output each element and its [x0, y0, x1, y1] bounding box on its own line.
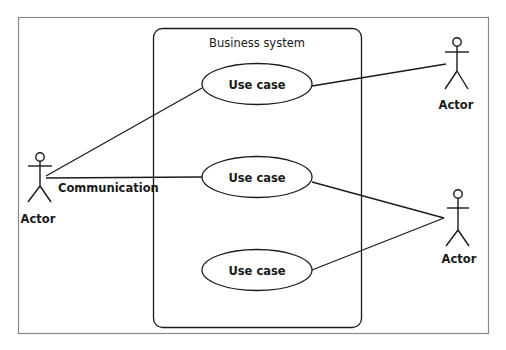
actor-bottom-right-label: Actor — [442, 252, 477, 266]
use-case-1[interactable]: Use case — [202, 64, 312, 105]
use-case-1-label: Use case — [228, 78, 285, 92]
communication-label: Communication — [58, 181, 159, 195]
use-case-2[interactable]: Use case — [202, 157, 312, 198]
use-case-3-label: Use case — [228, 264, 285, 278]
use-case-diagram: Business system Use case Use case Use ca… — [0, 0, 506, 350]
use-case-3[interactable]: Use case — [202, 250, 312, 291]
use-case-2-label: Use case — [228, 171, 285, 185]
actor-top-right-label: Actor — [439, 98, 474, 112]
actor-left-label: Actor — [21, 212, 56, 226]
system-label: Business system — [209, 36, 305, 50]
